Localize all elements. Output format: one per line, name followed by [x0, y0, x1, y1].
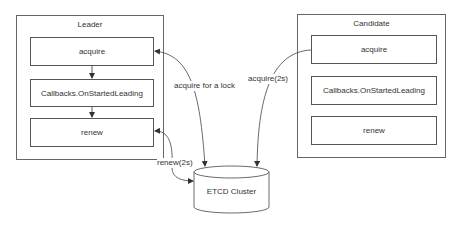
leader-callbacks-step: Callbacks.OnStartedLeading — [30, 79, 154, 107]
step-label: Callbacks.OnStartedLeading — [41, 89, 143, 98]
step-label: Callbacks.OnStartedLeading — [323, 86, 425, 95]
etcd-cluster-label: ETCD Cluster — [194, 187, 269, 196]
candidate-callbacks-step: Callbacks.OnStartedLeading — [311, 76, 437, 105]
leader-renew-edge-label: renew(2s) — [157, 158, 193, 168]
leader-title: Leader — [17, 20, 163, 29]
candidate-acquire-edge-label: acquire(2s) — [248, 74, 288, 84]
leader-renew-step: renew — [30, 118, 154, 147]
step-label: renew — [363, 126, 385, 135]
step-label: acquire — [79, 47, 105, 56]
candidate-acquire-step: acquire — [311, 35, 437, 64]
leader-acquire-step: acquire — [30, 37, 154, 66]
step-label: renew — [81, 128, 103, 137]
candidate-title: Candidate — [298, 19, 445, 28]
leader-acquire-edge-label: acquire for a lock — [174, 81, 235, 91]
candidate-renew-step: renew — [311, 116, 437, 145]
step-label: acquire — [361, 45, 387, 54]
